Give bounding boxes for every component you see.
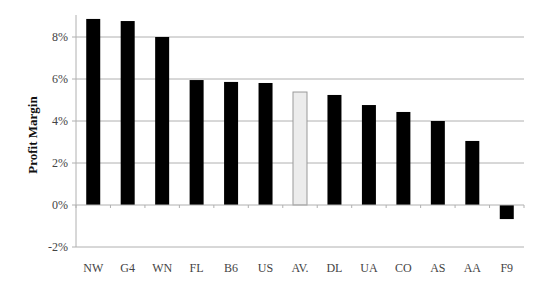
x-tick-label: WN [152,261,172,275]
x-tick-label: UA [360,261,378,275]
x-tick-label: FL [190,261,204,275]
y-tick-label: 8% [52,30,68,44]
x-tick-label: DL [326,261,342,275]
bar-UA [362,105,376,205]
bar-AA [465,141,479,205]
y-tick-label: 6% [52,72,68,86]
y-tick-labels: -2%0%2%4%6%8% [48,30,68,254]
x-tick-labels: NWG4WNFLB6USAV.DLUACOASAAF9 [83,261,513,275]
bar-US [259,83,273,205]
bar-F9 [500,205,514,219]
bars [86,19,514,219]
x-tick-label: AV. [291,261,308,275]
y-tick-label: 2% [52,156,68,170]
x-tick-label: G4 [120,261,135,275]
x-tick-label: US [258,261,273,275]
bar-AV [293,92,307,205]
x-tick-label: B6 [224,261,238,275]
bar-chart: -2%0%2%4%6%8% NWG4WNFLB6USAV.DLUACOASAAF… [0,0,552,292]
bar-AS [431,121,445,205]
bar-WN [155,37,169,205]
bar-NW [86,19,100,205]
bar-B6 [224,82,238,205]
x-tick-label: F9 [500,261,513,275]
bar-CO [396,112,410,205]
bar-DL [327,95,341,205]
bar-FL [190,80,204,205]
bar-G4 [121,21,135,205]
x-tick-label: AS [430,261,445,275]
x-tick-label: CO [395,261,412,275]
y-tick-label: 4% [52,114,68,128]
x-tick-label: AA [464,261,482,275]
y-tick-label: -2% [48,240,68,254]
y-axis-label: Profit Margin [25,96,41,173]
x-tick-label: NW [83,261,104,275]
y-tick-label: 0% [52,198,68,212]
